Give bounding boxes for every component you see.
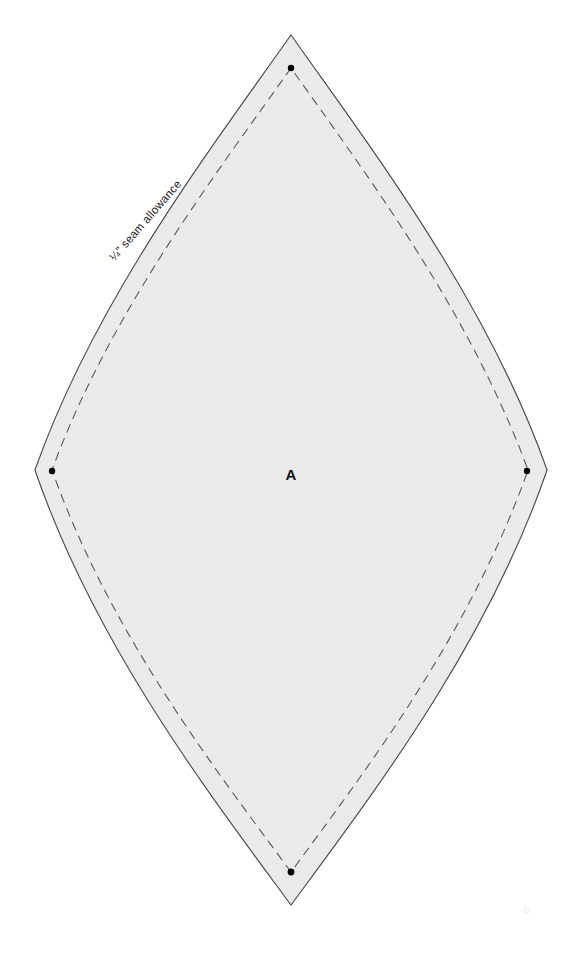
scan-artifact-speck [524, 907, 529, 912]
pattern-canvas: ¼" seam allowance A [0, 0, 581, 956]
dot-left [49, 468, 55, 474]
piece-label: A [286, 466, 297, 483]
dot-top [288, 65, 294, 71]
pattern-page: ¼" seam allowance A [0, 0, 581, 956]
dot-right [524, 468, 530, 474]
dot-bottom [288, 869, 295, 876]
